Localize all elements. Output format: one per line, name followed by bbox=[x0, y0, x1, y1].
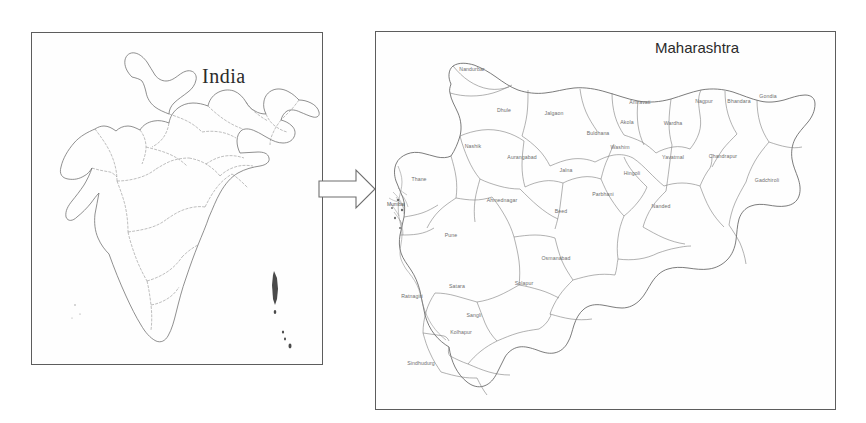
district-label: Thane bbox=[411, 176, 426, 182]
district-label: Ahmednagar bbox=[487, 197, 518, 203]
india-outline-map bbox=[32, 33, 324, 366]
right-arrow-icon bbox=[316, 166, 378, 212]
lakshadweep-islands bbox=[71, 304, 80, 318]
india-panel: India bbox=[31, 32, 323, 365]
district-label: Washim bbox=[610, 144, 629, 150]
city-label: Mumbai bbox=[387, 201, 405, 207]
district-label: Wardha bbox=[664, 120, 683, 126]
district-label: Aurangabad bbox=[507, 154, 536, 160]
district-label: Gadchiroli bbox=[755, 177, 779, 183]
district-label: Nandurbar bbox=[459, 66, 485, 72]
district-label: Nanded bbox=[652, 203, 671, 209]
maharashtra-map-title: Maharashtra bbox=[655, 39, 739, 56]
district-label: Amravati bbox=[629, 99, 650, 105]
maharashtra-panel: Nandurbar Dhule Jalgaon Nashik Buldhana … bbox=[375, 31, 836, 410]
district-label: Sindhudurg bbox=[407, 360, 435, 366]
district-label: Ratnagiri bbox=[401, 293, 423, 299]
district-label: Solapur bbox=[515, 280, 534, 286]
india-map-title: India bbox=[202, 65, 246, 88]
district-label: Gondia bbox=[759, 93, 776, 99]
district-label: Sangli bbox=[466, 312, 481, 318]
district-label: Pune bbox=[445, 232, 458, 238]
district-label: Dhule bbox=[497, 107, 511, 113]
district-label: Yavatmal bbox=[662, 154, 684, 160]
andaman-islands bbox=[272, 271, 292, 348]
district-label: Osmanabad bbox=[541, 255, 570, 261]
district-label: Hingoli bbox=[624, 170, 641, 176]
map-figure: India bbox=[0, 0, 866, 423]
district-label: Kolhapur bbox=[450, 329, 472, 335]
district-label: Beed bbox=[555, 208, 568, 214]
district-label: Satara bbox=[449, 283, 465, 289]
district-label: Jalna bbox=[560, 167, 573, 173]
district-label: Parbhani bbox=[592, 191, 614, 197]
district-label: Buldhana bbox=[587, 130, 610, 136]
district-label: Chandrapur bbox=[709, 153, 738, 159]
district-label-group: Nandurbar Dhule Jalgaon Nashik Buldhana … bbox=[387, 66, 779, 366]
district-label: Akola bbox=[620, 119, 633, 125]
district-label: Bhandara bbox=[727, 98, 750, 104]
district-label: Jalgaon bbox=[545, 110, 564, 116]
maharashtra-district-map: Nandurbar Dhule Jalgaon Nashik Buldhana … bbox=[376, 32, 837, 411]
district-label: Nagpur bbox=[695, 98, 713, 104]
district-label: Nashik bbox=[465, 143, 482, 149]
